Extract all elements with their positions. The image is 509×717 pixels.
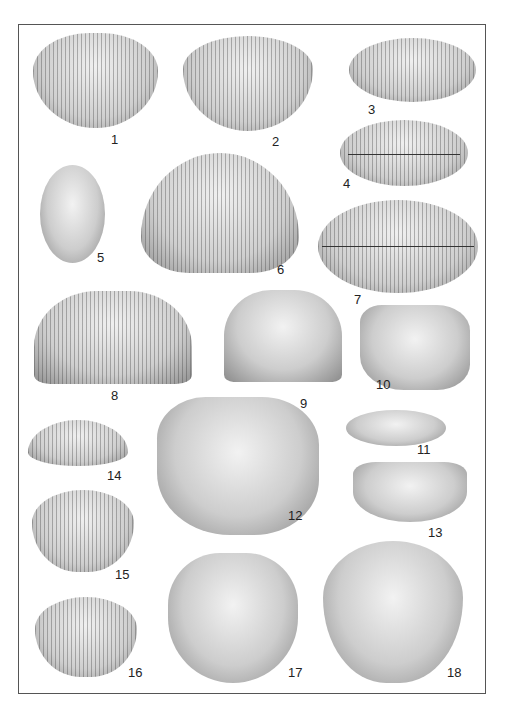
specimen-5-image bbox=[40, 165, 105, 263]
specimen-6-label: 6 bbox=[277, 262, 284, 277]
specimen-7-hinge-line bbox=[322, 246, 474, 247]
specimen-5-label: 5 bbox=[97, 250, 104, 265]
specimen-3-label: 3 bbox=[368, 102, 375, 117]
specimen-9-image bbox=[224, 290, 342, 382]
specimen-9-label: 9 bbox=[300, 396, 307, 411]
specimen-8-image bbox=[34, 291, 192, 384]
specimen-1-label: 1 bbox=[111, 132, 118, 147]
specimen-13-label: 13 bbox=[428, 525, 442, 540]
specimen-17-label: 17 bbox=[288, 665, 302, 680]
specimen-17-image bbox=[168, 553, 298, 683]
specimen-13-image bbox=[353, 462, 467, 522]
specimen-4-image bbox=[340, 120, 468, 186]
specimen-4-hinge-line bbox=[348, 154, 460, 155]
specimen-4-label: 4 bbox=[343, 176, 350, 191]
specimen-14-label: 14 bbox=[107, 468, 121, 483]
specimen-2-label: 2 bbox=[272, 134, 279, 149]
specimen-11-image bbox=[346, 410, 446, 446]
specimen-15-label: 15 bbox=[115, 567, 129, 582]
specimen-12-label: 12 bbox=[288, 508, 302, 523]
specimen-10-label: 10 bbox=[376, 377, 390, 392]
specimen-11-label: 11 bbox=[417, 442, 431, 457]
specimen-7-label: 7 bbox=[354, 292, 361, 307]
specimen-8-label: 8 bbox=[111, 388, 118, 403]
specimen-3-image bbox=[349, 38, 476, 102]
specimen-18-label: 18 bbox=[447, 665, 461, 680]
specimen-16-label: 16 bbox=[128, 665, 142, 680]
